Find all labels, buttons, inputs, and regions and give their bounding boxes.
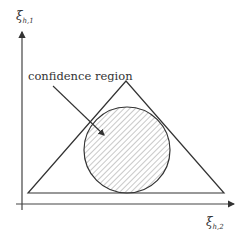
annotation-arrow	[53, 86, 104, 135]
confidence-region-label: confidence region	[28, 69, 133, 83]
y-axis-label: ξh,1	[16, 9, 34, 25]
x-axis-label: ξh,2	[206, 215, 224, 231]
confidence-circle	[84, 107, 170, 193]
confidence-region-diagram: ξh,1 ξh,2 confidence region	[0, 0, 247, 234]
